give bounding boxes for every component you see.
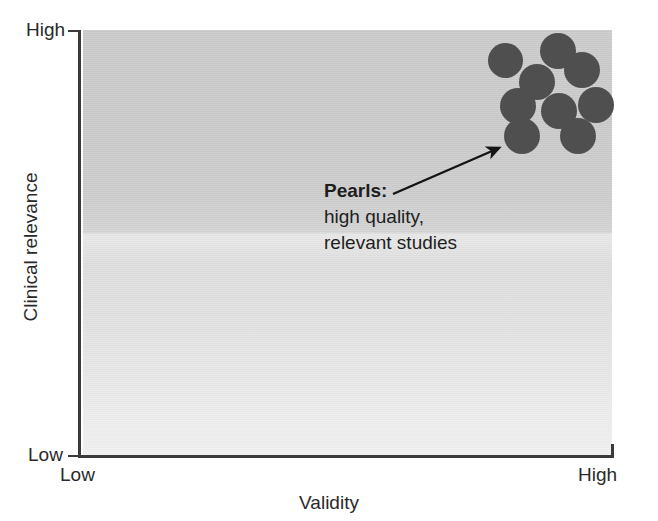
y-axis-label-high: High	[26, 19, 65, 41]
annotation-line-2: relevant studies	[324, 230, 457, 256]
data-point	[560, 118, 596, 154]
chart-container: Pearls: high quality, relevant studies H…	[0, 0, 658, 521]
y-axis-label-low: Low	[28, 444, 63, 466]
y-axis-line	[78, 30, 81, 458]
data-point	[504, 118, 540, 154]
pearls-annotation: Pearls: high quality, relevant studies	[324, 178, 457, 256]
x-axis-line	[78, 455, 614, 458]
y-axis-tick-high	[68, 30, 79, 32]
data-point	[564, 52, 600, 88]
data-point	[488, 43, 523, 78]
x-axis-tick-high	[611, 444, 614, 457]
annotation-line-1: high quality,	[324, 204, 457, 230]
x-axis-label-high: High	[578, 464, 617, 486]
x-axis-title: Validity	[0, 492, 658, 514]
x-axis-label-low: Low	[60, 464, 95, 486]
x-axis-tick-low	[78, 444, 80, 457]
data-point	[578, 87, 614, 123]
y-axis-title: Clinical relevance	[20, 157, 42, 337]
annotation-title: Pearls:	[324, 178, 457, 204]
